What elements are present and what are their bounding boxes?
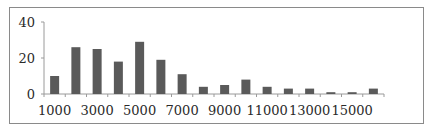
bar-9000 xyxy=(220,85,229,94)
x-tick-label: 11000 xyxy=(246,103,287,118)
bar-2000 xyxy=(71,47,80,94)
x-tick-label: 5000 xyxy=(123,103,156,118)
bar-13000 xyxy=(305,89,314,94)
bar-7000 xyxy=(178,74,187,94)
y-tick-label: 20 xyxy=(18,51,35,66)
x-tick-label: 3000 xyxy=(81,103,114,118)
bar-11000 xyxy=(263,87,272,94)
x-tick-label: 15000 xyxy=(331,103,372,118)
y-tick-label: 0 xyxy=(27,87,35,102)
bar-5000 xyxy=(135,42,144,94)
x-tick-label: 1000 xyxy=(38,103,71,118)
bar-1000 xyxy=(50,76,59,94)
bar-3000 xyxy=(93,49,102,94)
bar-8000 xyxy=(199,87,208,94)
x-tick-label: 9000 xyxy=(208,103,241,118)
bar-16000 xyxy=(369,89,378,94)
y-tick-label: 40 xyxy=(18,15,35,30)
bar-6000 xyxy=(156,60,165,94)
bar-chart: 0204010003000500070009000110001300015000 xyxy=(0,0,434,136)
x-tick-label: 13000 xyxy=(289,103,330,118)
bar-12000 xyxy=(284,89,293,94)
bar-4000 xyxy=(114,62,123,94)
bar-10000 xyxy=(241,80,250,94)
bar-14000 xyxy=(326,92,335,94)
bar-15000 xyxy=(348,92,357,94)
x-tick-label: 7000 xyxy=(166,103,199,118)
